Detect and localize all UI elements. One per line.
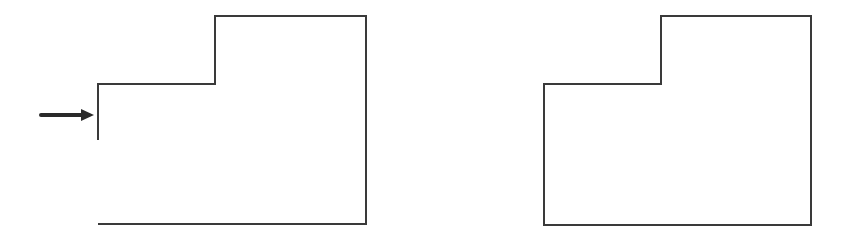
closed-stepped-outline: [544, 16, 811, 225]
closed-outline-path: [544, 16, 811, 225]
diagram-canvas: [0, 0, 848, 241]
open-outline-path: [98, 16, 366, 224]
arrow-head: [81, 109, 94, 121]
open-stepped-outline: [98, 16, 366, 224]
arrow-right-icon: [41, 109, 94, 121]
diagram-svg: [0, 0, 848, 241]
